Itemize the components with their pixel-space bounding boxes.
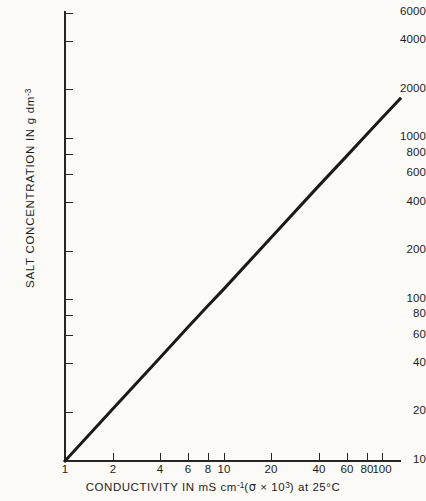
y-tick-label: 100 — [364, 292, 426, 304]
y-tick-label: 600 — [364, 166, 426, 178]
y-axis-title-exponent: -3 — [24, 89, 33, 96]
y-tick-label: 200 — [364, 243, 426, 255]
y-tick-mark — [66, 315, 73, 316]
x-axis-title: CONDUCTIVITY IN mS cm-1(σ × 103) at 25°C — [0, 480, 426, 494]
x-tick-label: 100 — [362, 463, 402, 475]
x-axis-title-prefix: CONDUCTIVITY IN mS cm — [86, 481, 237, 493]
x-tick-mark — [347, 453, 348, 460]
y-tick-mark — [66, 154, 73, 155]
y-axis-title-text: SALT CONCENTRATION IN g dm — [24, 96, 36, 288]
sigma-symbol: σ — [249, 480, 257, 494]
x-axis-line — [64, 460, 401, 462]
y-tick-label: 6000 — [364, 5, 426, 17]
y-tick-label: 80 — [364, 307, 426, 319]
y-axis-line — [64, 11, 66, 462]
y-tick-label: 2000 — [364, 82, 426, 94]
y-tick-mark — [66, 363, 73, 364]
x-tick-mark — [188, 453, 189, 460]
x-tick-mark — [65, 453, 66, 460]
chart-figure: 1020406080100200400600800100020004000600… — [0, 0, 426, 501]
y-tick-mark — [66, 41, 73, 42]
y-axis-title: SALT CONCENTRATION IN g dm-3 — [24, 58, 36, 318]
y-tick-mark — [66, 412, 73, 413]
x-tick-mark — [208, 453, 209, 460]
x-axis-title-suffix: at 25°C — [294, 481, 340, 493]
series-line — [65, 99, 400, 461]
y-tick-mark — [66, 202, 73, 203]
x-axis-title-times: × 10 — [257, 481, 286, 493]
x-tick-mark — [224, 453, 225, 460]
y-tick-label: 40 — [364, 356, 426, 368]
x-tick-label: 1 — [45, 463, 85, 475]
y-tick-mark — [66, 299, 73, 300]
x-tick-label: 20 — [251, 463, 291, 475]
y-tick-label: 4000 — [364, 33, 426, 45]
x-tick-label: 10 — [204, 463, 244, 475]
y-tick-label: 60 — [364, 328, 426, 340]
y-tick-label: 400 — [364, 195, 426, 207]
x-tick-mark — [271, 453, 272, 460]
x-tick-mark — [382, 453, 383, 460]
y-tick-mark — [66, 89, 73, 90]
y-tick-mark — [66, 461, 73, 462]
y-tick-mark — [66, 13, 73, 14]
x-tick-mark — [367, 453, 368, 460]
y-tick-label: 800 — [364, 146, 426, 158]
y-tick-mark — [66, 251, 73, 252]
x-tick-mark — [113, 453, 114, 460]
y-tick-mark — [66, 174, 73, 175]
y-tick-mark — [66, 335, 73, 336]
x-tick-mark — [160, 453, 161, 460]
y-tick-label: 1000 — [364, 130, 426, 142]
x-tick-label: 2 — [93, 463, 133, 475]
x-tick-mark — [319, 453, 320, 460]
y-tick-mark — [66, 138, 73, 139]
y-tick-label: 20 — [364, 404, 426, 416]
